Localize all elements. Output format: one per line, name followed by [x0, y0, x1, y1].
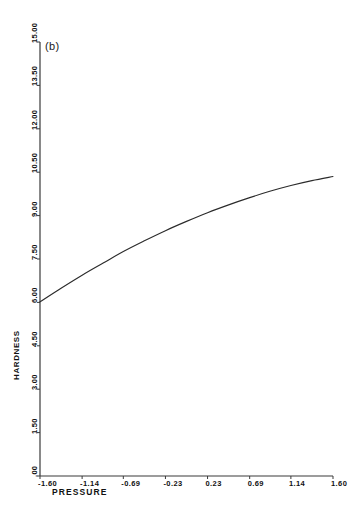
- plot-area: [0, 0, 357, 512]
- chart-figure: (b) HARDNESS PRESSURE .001.503.004.506.0…: [0, 0, 357, 512]
- data-curve: [40, 177, 333, 302]
